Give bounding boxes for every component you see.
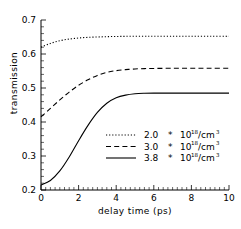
x-axis-tick-labels: 0246810 (38, 193, 235, 203)
y-tick-label: 0.7 (22, 15, 36, 25)
x-axis-label: delay time (ps) (41, 206, 229, 216)
y-tick-label: 0.3 (22, 151, 36, 161)
legend-base: 10 (180, 130, 192, 140)
chart-figure: 0.20.30.40.50.60.7 0246810 2.0*1018/cm33… (0, 0, 241, 229)
legend-multiplier-symbol: * (168, 153, 173, 163)
legend-multiplier-symbol: * (168, 142, 173, 152)
x-axis-ticks (41, 185, 229, 190)
legend-base: 10 (180, 153, 192, 163)
x-tick-label: 0 (38, 193, 44, 203)
x-tick-label: 2 (76, 193, 82, 203)
legend-multiplier-symbol: * (168, 130, 173, 140)
legend-units: /cm (198, 153, 215, 163)
legend-units-exponent: 3 (216, 129, 220, 135)
y-axis-tick-labels: 0.20.30.40.50.60.7 (22, 15, 37, 195)
y-axis-label: transmission (9, 47, 19, 119)
y-tick-label: 0.5 (22, 83, 36, 93)
x-tick-label: 6 (151, 193, 157, 203)
x-tick-label: 10 (223, 193, 235, 203)
y-tick-label: 0.2 (22, 185, 36, 195)
y-tick-label: 0.4 (22, 117, 37, 127)
y-tick-label: 0.6 (22, 49, 37, 59)
legend-density-value: 3.0 (144, 142, 159, 152)
legend-density-value: 3.8 (144, 153, 159, 163)
legend-units-exponent: 3 (216, 152, 220, 158)
legend-base: 10 (180, 142, 192, 152)
curve-dotted (41, 36, 229, 47)
transmission-vs-delay-plot: 0.20.30.40.50.60.7 0246810 2.0*1018/cm33… (0, 0, 241, 229)
x-tick-label: 8 (189, 193, 195, 203)
legend-units: /cm (198, 130, 215, 140)
legend-units: /cm (198, 142, 215, 152)
y-axis-ticks (41, 20, 46, 190)
chart-legend: 2.0*1018/cm33.0*1018/cm33.8*1018/cm3 (106, 129, 220, 164)
legend-density-value: 2.0 (144, 130, 159, 140)
legend-units-exponent: 3 (216, 140, 220, 146)
axis-lines (41, 20, 229, 190)
x-tick-label: 4 (113, 193, 119, 203)
